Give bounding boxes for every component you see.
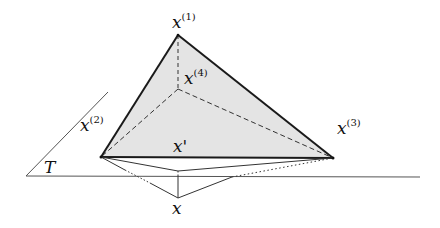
label-x1: x(1)	[172, 11, 196, 32]
plane-edge	[26, 92, 108, 176]
xprime-edges	[101, 157, 333, 198]
diagram-svg: T	[0, 0, 440, 228]
plane-baseline	[26, 176, 420, 177]
edge-x-x3-solid	[178, 177, 232, 198]
edge-x2-xprime	[101, 157, 178, 171]
vertex-x3	[332, 157, 335, 160]
vertex-x2	[100, 156, 103, 159]
label-x: x	[172, 198, 182, 218]
plane-label: T	[44, 157, 57, 177]
shaded-face	[101, 35, 333, 158]
label-xprime: x'	[173, 136, 187, 156]
label-x2: x(2)	[80, 114, 104, 135]
diagram-canvas: T	[0, 0, 440, 228]
edge-xprime-x3	[178, 158, 333, 171]
vertex-x1	[177, 34, 180, 37]
edge-x-x3-dotted	[232, 158, 333, 177]
edge-x2-x3	[101, 157, 333, 158]
label-x3: x(3)	[337, 117, 361, 138]
edge-x2-x-lower	[150, 183, 178, 198]
